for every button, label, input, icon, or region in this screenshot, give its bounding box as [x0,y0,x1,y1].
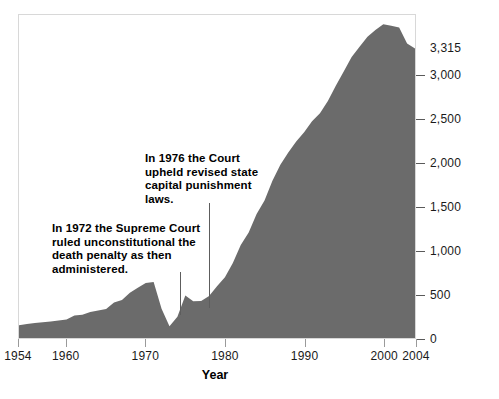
x-tick-label-1980: 1980 [211,349,239,363]
y-tick-label-500: 500 [430,289,451,301]
x-tick-label-2004: 2004 [402,349,430,363]
annotation-1972: In 1972 the Supreme Court ruled unconsti… [52,222,202,276]
annotation-1976-leader-line [209,203,210,308]
annotation-1972-leader-line [180,272,181,315]
y-tick-dash-icon [416,75,425,76]
y-tick-label-2500: 2,500 [430,113,461,125]
annotation-1976: In 1976 the Court upheld revised state c… [145,152,280,206]
x-tick-dash-icon [145,339,146,347]
x-tick-dash-icon [305,339,306,347]
x-tick-label-1970: 1970 [132,349,160,363]
y-tick-label-3315: 3,315 [430,42,461,54]
y-tick-label-1500: 1,500 [430,201,461,213]
x-tick-dash-icon [66,339,67,347]
x-tick-dash-icon [384,339,385,347]
x-tick-dash-icon [416,339,417,347]
chart-container: 3,315 3,000 2,500 2,000 1,500 1,000 500 [0,0,499,399]
y-tick-dash-icon [416,295,425,296]
y-tick-label-1000: 1,000 [430,245,461,257]
x-axis: 1954 1960 1970 1980 1990 2000 2004 [0,339,499,369]
x-axis-title: Year [0,368,430,382]
y-tick-dash-icon [416,207,425,208]
y-tick-dash-icon [416,163,425,164]
x-tick-label-1960: 1960 [52,349,80,363]
y-tick-dash-icon [416,119,425,120]
x-tick-label-1954: 1954 [4,349,32,363]
y-tick-label-2000: 2,000 [430,157,461,169]
x-tick-dash-icon [225,339,226,347]
x-tick-label-1990: 1990 [291,349,319,363]
y-tick-label-3000: 3,000 [430,69,461,81]
x-tick-dash-icon [18,339,19,347]
x-tick-label-2000: 2000 [370,349,398,363]
y-tick-dash-icon [416,251,425,252]
